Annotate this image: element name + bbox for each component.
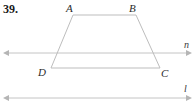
edge-da [51,15,73,68]
edge-bc [136,15,160,68]
vertex-label-c: C [161,67,168,79]
diagram-canvas [0,0,194,106]
line-label-l: l [184,83,187,94]
vertex-label-b: B [129,2,136,14]
geometry-figure: 39. A B C D n l [0,0,194,106]
vertex-label-a: A [66,2,73,14]
line-label-n: n [184,39,189,50]
vertex-label-d: D [38,66,46,78]
